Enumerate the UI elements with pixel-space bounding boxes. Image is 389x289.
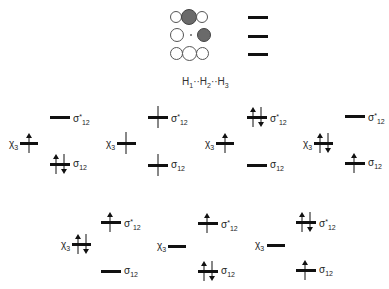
spin-pair-arrows-icon [53,154,67,174]
single-electron-line-icon [157,106,159,128]
sigma-label: σ12 [124,266,138,280]
orbital-level-bar [248,53,268,56]
chi3-label: χ3 [157,241,166,255]
single-electron-line-icon [157,154,159,176]
sigma-star-label: σ*12 [73,112,90,128]
sigma-level [101,270,121,273]
chi3-label: χ3 [303,139,312,153]
h3-orbital-circle [196,11,208,23]
h3-orbital-circle [196,47,209,60]
spin-pair-arrows-icon [250,107,264,127]
h2-orbital-circle-filled [181,9,197,25]
node-dot [190,34,192,36]
spin-up-arrow-icon [107,212,113,232]
h1-orbital-circle [170,28,184,42]
chi3-label: χ3 [9,139,18,153]
chi3-level [168,245,186,248]
sigma-star-label: σ*12 [270,112,287,128]
orbital-level-bar [248,16,268,19]
sigma-label: σ12 [319,265,333,279]
sigma-label: σ12 [171,160,185,174]
sigma-level [247,164,267,167]
spin-pair-arrows-icon [317,133,331,153]
sigma-star-label: σ*12 [171,112,188,128]
h1-h2-h3-label: H1··H2··H3 [182,76,229,89]
chi3-label: χ3 [61,240,70,254]
h2-orbital-circle [182,46,197,61]
chi3-label: χ3 [106,139,115,153]
orbital-level-bar [248,35,268,38]
sigma-star-label: σ*12 [319,217,336,233]
single-electron-line-icon [125,132,127,154]
sigma-label: σ12 [270,160,284,174]
spin-up-arrow-icon [204,213,210,233]
spin-pair-arrows-icon [75,234,89,254]
sigma-label: σ12 [73,159,87,173]
sigma-star-level [50,116,70,119]
spin-up-arrow-icon [26,133,32,153]
spin-up-arrow-icon [351,153,357,173]
sigma-label: σ12 [368,158,382,172]
sigma-label: σ12 [221,266,235,280]
sigma-star-label: σ*12 [221,218,238,234]
chi3-level [267,244,285,247]
sigma-star-level [345,115,365,118]
chi3-label: χ3 [205,139,214,153]
sigma-star-label: σ*12 [368,111,385,127]
spin-pair-arrows-icon [299,212,313,232]
h3-orbital-circle-filled [197,28,211,42]
sigma-star-label: σ*12 [124,217,141,233]
spin-up-arrow-icon [222,133,228,153]
spin-up-arrow-icon [302,260,308,280]
spin-pair-arrows-icon [201,261,215,281]
chi3-label: χ3 [255,240,264,254]
